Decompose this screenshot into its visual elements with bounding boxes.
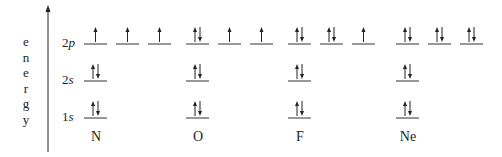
spin-up-arrow-icon <box>467 27 471 42</box>
orbital-ne-2s-1 <box>396 64 419 81</box>
spin-up-arrow-icon <box>228 27 232 42</box>
level-label-1s: 1s <box>62 109 74 125</box>
orbital-n-2p-2 <box>116 27 139 44</box>
orbital-o-2s-1 <box>186 64 209 81</box>
spin-down-arrow-icon <box>300 64 304 79</box>
energy-axis <box>46 5 51 152</box>
axis-letter: e <box>20 34 32 50</box>
spin-up-arrow-icon <box>327 27 331 42</box>
spin-up-arrow-icon <box>193 101 197 116</box>
orbital-o-2p-2 <box>218 27 241 44</box>
level-subshell: p <box>69 35 76 50</box>
spin-down-arrow-icon <box>300 101 304 116</box>
spin-down-arrow-icon <box>440 27 444 42</box>
level-label-2p: 2p <box>62 35 75 51</box>
element-label-ne: Ne <box>393 129 423 145</box>
spin-up-arrow-icon <box>94 27 98 42</box>
element-label-o: O <box>183 129 213 145</box>
spin-up-arrow-icon <box>295 64 299 79</box>
spin-up-arrow-icon <box>126 27 130 42</box>
element-label-f: F <box>285 129 315 145</box>
spin-down-arrow-icon <box>408 27 412 42</box>
spin-down-arrow-icon <box>96 64 100 79</box>
orbital-f-1s-1 <box>288 101 311 118</box>
spin-up-arrow-icon <box>435 27 439 42</box>
energy-axis-label: e n e r g y <box>20 34 32 127</box>
spin-up-arrow-icon <box>158 27 162 42</box>
spin-down-arrow-icon <box>198 64 202 79</box>
spin-down-arrow-icon <box>408 101 412 116</box>
spin-down-arrow-icon <box>408 64 412 79</box>
orbital-ne-2p-3 <box>460 27 483 44</box>
level-label-2s: 2s <box>62 72 74 88</box>
orbital-f-2p-1 <box>288 27 311 44</box>
spin-down-arrow-icon <box>198 27 202 42</box>
axis-letter: g <box>20 96 32 112</box>
orbital-ne-2p-2 <box>428 27 451 44</box>
orbital-ne-2p-1 <box>396 27 419 44</box>
spin-down-arrow-icon <box>332 27 336 42</box>
orbital-n-2p-1 <box>84 27 107 44</box>
orbital-f-2p-3 <box>352 27 375 44</box>
orbital-f-2s-1 <box>288 64 311 81</box>
orbital-diagram <box>0 0 502 157</box>
axis-letter: n <box>20 50 32 66</box>
orbital-n-2s-1 <box>84 64 107 81</box>
orbital-f-2p-2 <box>320 27 343 44</box>
level-subshell: s <box>69 72 74 87</box>
orbital-o-2p-1 <box>186 27 209 44</box>
spin-up-arrow-icon <box>403 101 407 116</box>
spin-down-arrow-icon <box>472 27 476 42</box>
spin-down-arrow-icon <box>198 101 202 116</box>
orbital-ne-1s-1 <box>396 101 419 118</box>
element-label-n: N <box>81 129 111 145</box>
axis-letter: y <box>20 112 32 128</box>
spin-down-arrow-icon <box>96 101 100 116</box>
spin-up-arrow-icon <box>193 27 197 42</box>
orbital-o-1s-1 <box>186 101 209 118</box>
axis-letter: e <box>20 65 32 81</box>
orbital-levels <box>84 27 483 118</box>
orbital-n-2p-3 <box>148 27 171 44</box>
spin-up-arrow-icon <box>403 27 407 42</box>
spin-up-arrow-icon <box>91 101 95 116</box>
level-subshell: s <box>69 109 74 124</box>
spin-up-arrow-icon <box>403 64 407 79</box>
spin-up-arrow-icon <box>193 64 197 79</box>
axis-letter: r <box>20 81 32 97</box>
spin-up-arrow-icon <box>295 27 299 42</box>
spin-up-arrow-icon <box>362 27 366 42</box>
spin-up-arrow-icon <box>91 64 95 79</box>
orbital-o-2p-3 <box>250 27 273 44</box>
spin-down-arrow-icon <box>300 27 304 42</box>
orbital-n-1s-1 <box>84 101 107 118</box>
spin-up-arrow-icon <box>295 101 299 116</box>
axis-arrowhead-icon <box>46 5 51 12</box>
spin-up-arrow-icon <box>260 27 264 42</box>
